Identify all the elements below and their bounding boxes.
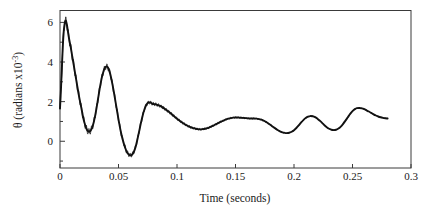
y-axis-title-exponent: -3 (11, 56, 20, 63)
x-axis-tick-labels: 00.050.10.150.20.250.3 (57, 170, 418, 182)
chart-figure: 00.050.10.150.20.250.3 0246 Time (second… (0, 0, 434, 211)
y-axis-title-suffix: ) (12, 52, 25, 56)
x-tick-label: 0.15 (226, 170, 246, 182)
y-axis-title: θ (radians x10-3) (11, 52, 25, 128)
y-axis-tick-labels: 0246 (48, 16, 54, 147)
x-tick-label: 0.05 (109, 170, 129, 182)
theta-curve-noise-band (60, 17, 387, 157)
y-tick-label: 2 (48, 96, 54, 108)
x-tick-label: 0 (57, 170, 63, 182)
x-tick-label: 0.25 (343, 170, 363, 182)
x-tick-label: 0.2 (287, 170, 301, 182)
x-axis-ticks (60, 164, 411, 168)
plot-canvas: 00.050.10.150.20.250.3 0246 Time (second… (0, 0, 434, 211)
y-axis-title-main: θ (radians x10 (12, 62, 25, 128)
x-axis-title: Time (seconds) (200, 192, 271, 205)
y-tick-label: 6 (48, 16, 54, 28)
y-axis-title-group: θ (radians x10-3) (11, 52, 25, 128)
x-tick-label: 0.1 (170, 170, 184, 182)
x-tick-label: 0.3 (404, 170, 418, 182)
theta-curve (60, 20, 388, 155)
y-tick-label: 4 (48, 56, 54, 68)
y-tick-label: 0 (48, 135, 54, 147)
